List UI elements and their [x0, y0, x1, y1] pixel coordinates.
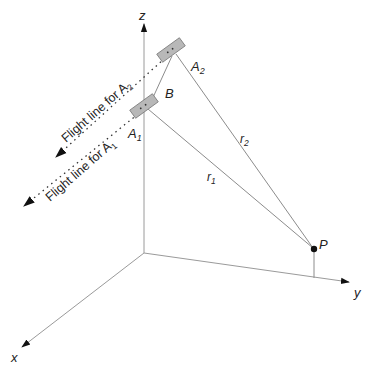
z-axis-label: z: [138, 8, 146, 23]
a1-label: A1: [127, 126, 142, 143]
y-axis: [144, 253, 349, 282]
r2-label: r2: [240, 132, 249, 148]
point-p: [311, 246, 317, 252]
r1-line: [148, 109, 313, 248]
diagram-canvas: z y x Flight line for A2 Flight line for…: [0, 0, 380, 372]
y-axis-label: y: [353, 285, 362, 300]
r2-line: [176, 54, 313, 248]
p-label: P: [319, 237, 328, 252]
x-axis: [22, 253, 144, 347]
x-axis-label: x: [10, 350, 18, 365]
b-label: B: [165, 86, 174, 101]
flight-line-a2-label: Flight line for A2: [59, 77, 136, 147]
flight-line-a1-label: Flight line for A1: [43, 136, 120, 206]
r1-label: r1: [207, 170, 216, 186]
a2-label: A2: [190, 59, 205, 76]
